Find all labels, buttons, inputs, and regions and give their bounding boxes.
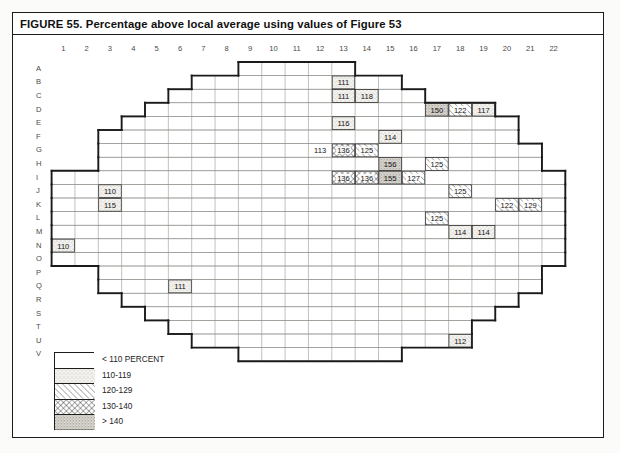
- row-label-D: D: [36, 105, 46, 114]
- grid-cell-value: 136: [337, 174, 350, 183]
- row-label-I: I: [36, 173, 46, 182]
- row-label-Q: Q: [36, 281, 46, 290]
- grid-cell-value: 136: [360, 174, 373, 183]
- column-label-4: 4: [125, 44, 141, 53]
- grid-cell-value: 116: [337, 119, 349, 128]
- legend-label: > 140: [102, 416, 123, 426]
- legend-swatch: [54, 368, 94, 384]
- legend-label: 130-140: [102, 401, 132, 411]
- row-label-M: M: [36, 227, 46, 236]
- column-label-21: 21: [522, 44, 538, 53]
- column-label-15: 15: [382, 44, 398, 53]
- grid-cell-value: 125: [431, 214, 444, 223]
- legend-swatch: [54, 383, 94, 399]
- grid-cell-value: 129: [524, 201, 537, 210]
- grid-cell-value: 111: [338, 92, 350, 101]
- row-label-E: E: [36, 118, 46, 127]
- legend-swatch: [54, 352, 94, 368]
- grid-cell-value: 111: [338, 78, 350, 87]
- column-label-11: 11: [289, 44, 305, 53]
- row-label-S: S: [36, 309, 46, 318]
- legend-label: 120-129: [102, 385, 132, 395]
- column-label-17: 17: [429, 44, 445, 53]
- grid-cell-value: 114: [454, 228, 466, 237]
- legend-separator: [54, 383, 94, 384]
- legend-swatch: [54, 399, 94, 415]
- column-label-5: 5: [149, 44, 165, 53]
- grid-cell-value: 110: [57, 242, 69, 251]
- column-label-20: 20: [499, 44, 515, 53]
- row-label-B: B: [36, 77, 46, 86]
- grid-cell-value: 156: [384, 160, 397, 169]
- column-label-9: 9: [242, 44, 258, 53]
- grid-cell-value: 125: [360, 146, 373, 155]
- grid-cell-value: 112: [454, 337, 466, 346]
- grid-cell-value: 125: [454, 187, 467, 196]
- row-label-L: L: [36, 213, 46, 222]
- legend-separator: [54, 399, 94, 400]
- column-label-22: 22: [546, 44, 562, 53]
- grid-cell-value: 150: [431, 106, 444, 115]
- column-label-18: 18: [452, 44, 468, 53]
- column-label-8: 8: [219, 44, 235, 53]
- row-label-F: F: [36, 132, 46, 141]
- column-label-12: 12: [312, 44, 328, 53]
- column-label-6: 6: [172, 44, 188, 53]
- grid-cell-value: 117: [478, 106, 490, 115]
- row-label-G: G: [36, 145, 46, 154]
- grid-cell-value: 111: [174, 282, 186, 291]
- row-label-N: N: [36, 241, 46, 250]
- column-label-16: 16: [406, 44, 422, 53]
- grid-cell-value: 114: [384, 133, 396, 142]
- grid-cell-value: 115: [104, 201, 116, 210]
- column-label-1: 1: [55, 44, 71, 53]
- row-label-U: U: [36, 336, 46, 345]
- row-label-V: V: [36, 349, 46, 358]
- row-label-P: P: [36, 268, 46, 277]
- row-label-T: T: [36, 322, 46, 331]
- column-label-13: 13: [335, 44, 351, 53]
- grid-cell-value: 125: [431, 160, 444, 169]
- row-label-H: H: [36, 159, 46, 168]
- row-label-K: K: [36, 200, 46, 209]
- legend-separator: [54, 368, 94, 369]
- grid-cell-value: 122: [454, 106, 467, 115]
- column-label-10: 10: [265, 44, 281, 53]
- grid-cell-value: 118: [361, 92, 373, 101]
- column-label-7: 7: [195, 44, 211, 53]
- grid-cell-value: 155: [384, 174, 397, 183]
- legend-swatch: [54, 414, 94, 430]
- grid-cell-value: 127: [407, 174, 420, 183]
- legend-label: < 110 PERCENT: [102, 354, 164, 364]
- figure-page: FIGURE 55. Percentage above local averag…: [0, 0, 620, 453]
- row-label-A: A: [36, 64, 46, 73]
- row-label-O: O: [36, 254, 46, 263]
- grid-cell-value: 136: [337, 146, 350, 155]
- column-label-19: 19: [476, 44, 492, 53]
- column-label-14: 14: [359, 44, 375, 53]
- grid-cell-value: 122: [501, 201, 514, 210]
- grid-cell-value: 113: [314, 146, 326, 155]
- row-label-J: J: [36, 186, 46, 195]
- legend-label: 110-119: [102, 370, 131, 380]
- row-label-R: R: [36, 295, 46, 304]
- grid-cell-value: 114: [478, 228, 490, 237]
- grid-cell-value: 110: [104, 187, 116, 196]
- legend-separator: [54, 414, 94, 415]
- column-label-2: 2: [79, 44, 95, 53]
- row-label-C: C: [36, 91, 46, 100]
- column-label-3: 3: [102, 44, 118, 53]
